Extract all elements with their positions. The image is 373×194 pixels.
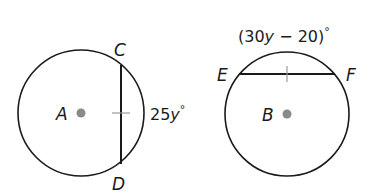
arc-measure-ef: (30y − 20)° (238, 25, 330, 46)
label-c: C (114, 40, 126, 60)
center-dot-a (77, 109, 86, 118)
figure-circle-a: A C D 25y° (18, 40, 185, 194)
label-d: D (112, 174, 125, 194)
label-a: A (55, 104, 68, 124)
figure-circle-b: B E F (30y − 20)° (217, 25, 356, 176)
label-f: F (346, 65, 356, 85)
label-b: B (262, 105, 274, 125)
diagram-canvas: A C D 25y° B E F (30y − 20)° (0, 0, 373, 194)
arc-measure-cd: 25y° (150, 103, 185, 124)
center-dot-b (283, 110, 292, 119)
label-e: E (217, 65, 228, 85)
